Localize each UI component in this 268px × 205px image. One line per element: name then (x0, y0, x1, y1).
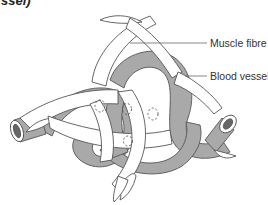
label-muscle-fibre: Muscle fibre (210, 37, 267, 49)
nucleus-dashed-2 (148, 108, 158, 120)
label-blood-vessel: Blood vessel (210, 70, 268, 82)
muscle-vessel-diagram (0, 0, 268, 205)
